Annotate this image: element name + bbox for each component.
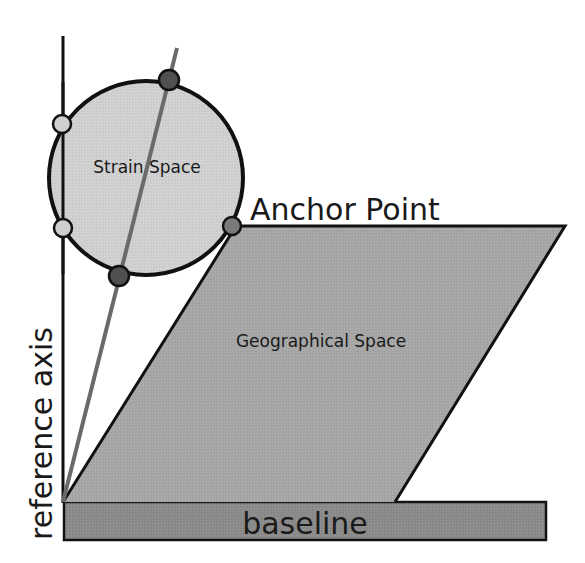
lower-axis-intersection-point <box>54 219 72 237</box>
upper-projection-intersection-point <box>159 70 179 90</box>
reference-axis-label: reference axis <box>24 327 59 540</box>
strain-space-label: Strain Space <box>93 157 201 177</box>
baseline-label: baseline <box>242 506 368 541</box>
lower-projection-intersection-point <box>109 266 129 286</box>
strain-geographical-diagram: baseline Geographical Space Strain Space… <box>0 0 585 563</box>
anchor-point-label: Anchor Point <box>250 192 440 227</box>
geographical-space-label: Geographical Space <box>236 331 406 351</box>
upper-axis-intersection-point <box>53 115 71 133</box>
anchor-point <box>223 217 241 235</box>
baseline-bar: baseline <box>64 502 546 541</box>
